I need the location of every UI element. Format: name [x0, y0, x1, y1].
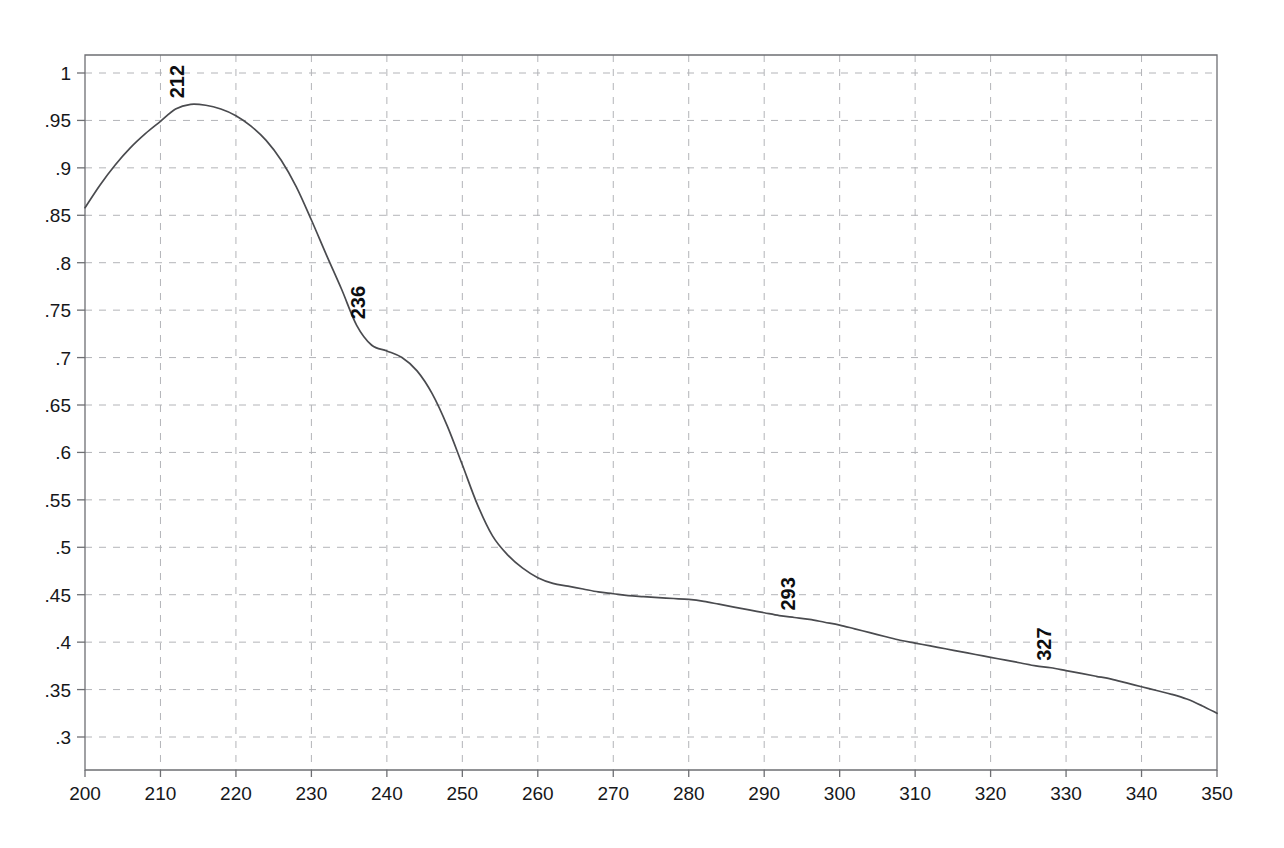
y-tick-label: .35	[45, 680, 71, 701]
x-tick-label: 290	[748, 783, 780, 804]
x-tick-label: 240	[371, 783, 403, 804]
peak-annotations: 212236293327	[166, 65, 1056, 661]
plot-border	[85, 55, 1217, 770]
y-tick-label: .75	[45, 300, 71, 321]
y-tick-label: .45	[45, 585, 71, 606]
x-tick-label: 310	[899, 783, 931, 804]
x-tick-label: 330	[1050, 783, 1082, 804]
peak-annotation-label: 293	[777, 577, 799, 610]
x-tick-label: 260	[522, 783, 554, 804]
x-tick-label: 210	[145, 783, 177, 804]
y-axis-tick-labels: 1.95.9.85.8.75.7.65.6.55.5.45.4.35.3	[45, 63, 72, 748]
x-tick-label: 270	[597, 783, 629, 804]
y-tick-label: .55	[45, 490, 71, 511]
peak-annotation-label: 212	[166, 65, 188, 98]
x-tick-label: 320	[975, 783, 1007, 804]
y-tick-label: .8	[55, 253, 71, 274]
plot-frame	[85, 55, 1217, 770]
y-tick-label: .6	[55, 442, 71, 463]
y-tick-label: .4	[55, 632, 71, 653]
x-tick-label: 250	[446, 783, 478, 804]
peak-annotation-label: 236	[347, 286, 369, 319]
chart-canvas: 1.95.9.85.8.75.7.65.6.55.5.45.4.35.3 200…	[0, 0, 1284, 848]
x-tick-label: 300	[824, 783, 856, 804]
x-tick-label: 230	[296, 783, 328, 804]
data-series-layer	[85, 104, 1217, 713]
x-tick-label: 340	[1126, 783, 1158, 804]
x-tick-label: 200	[69, 783, 101, 804]
peak-annotation-label: 327	[1033, 627, 1055, 660]
y-tick-label: .7	[55, 348, 71, 369]
x-axis-tick-labels: 2002102202302402502602702802903003103203…	[69, 783, 1233, 804]
y-tick-label: 1	[60, 63, 71, 84]
y-tick-label: .95	[45, 110, 71, 131]
spectrum-chart: 1.95.9.85.8.75.7.65.6.55.5.45.4.35.3 200…	[0, 0, 1284, 848]
y-tick-label: .5	[55, 537, 71, 558]
grid-layer	[85, 55, 1217, 770]
data-curve	[85, 104, 1217, 713]
x-tick-label: 280	[673, 783, 705, 804]
x-tick-label: 220	[220, 783, 252, 804]
y-tick-label: .9	[55, 158, 71, 179]
y-tick-label: .65	[45, 395, 71, 416]
tick-marks	[77, 73, 1217, 777]
y-tick-label: .3	[55, 727, 71, 748]
x-tick-label: 350	[1201, 783, 1233, 804]
y-tick-label: .85	[45, 205, 71, 226]
